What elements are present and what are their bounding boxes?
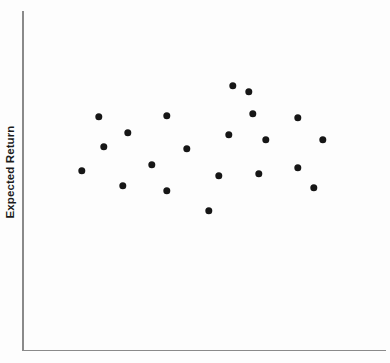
scatter-point (119, 182, 126, 189)
scatter-point (294, 114, 301, 121)
scatter-point (262, 136, 269, 143)
scatter-point (245, 88, 252, 95)
plot-area (0, 0, 390, 363)
scatter-point (205, 207, 212, 214)
scatter-point (215, 172, 222, 179)
scatter-point (229, 82, 236, 89)
scatter-point (310, 184, 317, 191)
scatter-point (319, 136, 326, 143)
scatter-point (294, 164, 301, 171)
scatter-point (100, 143, 107, 150)
scatter-point (148, 161, 155, 168)
scatter-point (183, 145, 190, 152)
scatter-point (78, 167, 85, 174)
scatter-point (249, 110, 256, 117)
scatter-point (163, 187, 170, 194)
scatter-point (225, 131, 232, 138)
scatter-point (255, 170, 262, 177)
scatter-point (163, 112, 170, 119)
scatter-plot-figure: Expected Return (0, 0, 390, 363)
scatter-point (95, 113, 102, 120)
scatter-point (124, 129, 131, 136)
